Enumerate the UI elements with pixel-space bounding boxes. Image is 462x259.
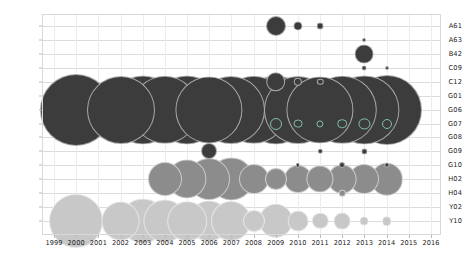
gridline-horizontal bbox=[42, 151, 441, 152]
y-axis-tick bbox=[39, 123, 42, 124]
bubble-c09-2014[interactable] bbox=[385, 66, 389, 70]
y-axis-tick bbox=[39, 39, 42, 40]
bubble-g07-2014[interactable] bbox=[382, 119, 392, 129]
bubble-h02-2011[interactable] bbox=[307, 166, 334, 193]
y-axis-tick bbox=[39, 67, 42, 68]
x-axis-tick bbox=[121, 235, 122, 238]
y-axis-tick-label-h02: H02 bbox=[424, 175, 462, 183]
bubble-a61-2010[interactable] bbox=[293, 21, 302, 30]
x-axis-tick-label-2016: 2016 bbox=[422, 239, 439, 247]
bubble-y10-2013[interactable] bbox=[360, 217, 369, 226]
x-axis-tick bbox=[76, 235, 77, 238]
x-axis-tick-label-2007: 2007 bbox=[223, 239, 240, 247]
y-axis-tick-label-g07: G07 bbox=[424, 120, 462, 128]
bubble-g09-2006[interactable] bbox=[201, 143, 217, 159]
bubble-g06-2002[interactable] bbox=[87, 76, 155, 144]
bubble-h04-2012[interactable] bbox=[339, 190, 345, 196]
x-axis-tick-label-2008: 2008 bbox=[245, 239, 262, 247]
y-axis-tick-label-a61: A61 bbox=[424, 22, 462, 30]
x-axis-tick bbox=[54, 235, 55, 238]
bubble-g07-2012[interactable] bbox=[337, 119, 347, 129]
y-axis-tick-label-a63: A63 bbox=[424, 36, 462, 44]
bubble-g10-2012[interactable] bbox=[339, 162, 345, 168]
x-axis-tick-label-2001: 2001 bbox=[90, 239, 107, 247]
x-axis-tick bbox=[254, 235, 255, 238]
bubble-y10-2014[interactable] bbox=[382, 216, 392, 226]
bubble-y10-2012[interactable] bbox=[334, 213, 351, 230]
y-axis-tick bbox=[39, 179, 42, 180]
x-axis-tick bbox=[276, 235, 277, 238]
bubble-g06-2006[interactable] bbox=[176, 76, 243, 143]
x-axis-tick bbox=[342, 235, 343, 238]
y-axis-tick bbox=[39, 109, 42, 110]
y-axis-tick bbox=[39, 95, 42, 96]
x-axis-tick bbox=[209, 235, 210, 238]
x-axis-tick bbox=[231, 235, 232, 238]
y-axis-tick-label-y02: Y02 bbox=[424, 203, 462, 211]
y-axis-tick bbox=[39, 53, 42, 54]
y-axis-tick bbox=[39, 137, 42, 138]
x-axis-tick bbox=[364, 235, 365, 238]
x-axis-tick-label-2003: 2003 bbox=[134, 239, 151, 247]
x-axis-tick-label-2011: 2011 bbox=[312, 239, 329, 247]
y-axis-tick-label-y10: Y10 bbox=[424, 217, 462, 225]
plot-area bbox=[42, 14, 441, 235]
y-axis-tick bbox=[39, 151, 42, 152]
y-axis-tick-label-g01: G01 bbox=[424, 92, 462, 100]
bubble-g09-2011[interactable] bbox=[318, 149, 322, 153]
x-axis-tick bbox=[387, 235, 388, 238]
bubble-y10-2008[interactable] bbox=[243, 210, 265, 232]
y-axis-tick-label-h04: H04 bbox=[424, 189, 462, 197]
x-axis-tick bbox=[409, 235, 410, 238]
bubble-c09-2013[interactable] bbox=[362, 65, 367, 70]
gridline-horizontal bbox=[42, 26, 441, 27]
bubble-c12-2009[interactable] bbox=[266, 72, 286, 92]
x-axis-tick bbox=[320, 235, 321, 238]
bubble-g09-2013[interactable] bbox=[362, 149, 367, 154]
gridline-horizontal bbox=[42, 40, 441, 41]
y-axis-tick-label-g06: G06 bbox=[424, 106, 462, 114]
bubble-g07-2010[interactable] bbox=[294, 119, 303, 128]
bubble-h02-2009[interactable] bbox=[265, 168, 287, 190]
x-axis-tick bbox=[143, 235, 144, 238]
bubble-a63-2013[interactable] bbox=[362, 38, 366, 42]
x-axis-tick-label-2013: 2013 bbox=[356, 239, 373, 247]
x-axis-tick bbox=[298, 235, 299, 238]
bubble-chart: A61A63B42C09C12G01G06G07G08G09G10H02H04Y… bbox=[0, 0, 462, 259]
x-axis-tick-label-2012: 2012 bbox=[334, 239, 351, 247]
x-axis-tick-label-2000: 2000 bbox=[68, 239, 85, 247]
bubble-a61-2011[interactable] bbox=[317, 23, 324, 30]
x-axis-tick-label-2009: 2009 bbox=[267, 239, 284, 247]
x-axis-tick-label-2015: 2015 bbox=[400, 239, 417, 247]
x-axis-tick bbox=[98, 235, 99, 238]
x-axis-tick-label-2004: 2004 bbox=[156, 239, 173, 247]
x-axis-tick-label-2002: 2002 bbox=[112, 239, 129, 247]
bubble-a61-2009[interactable] bbox=[266, 16, 286, 36]
x-axis-tick-label-2005: 2005 bbox=[178, 239, 195, 247]
y-axis-tick-label-g08: G08 bbox=[424, 133, 462, 141]
bubble-y10-2011[interactable] bbox=[312, 213, 328, 229]
bubble-g06-2011[interactable] bbox=[287, 76, 354, 143]
y-axis-tick bbox=[39, 81, 42, 82]
x-axis-tick-label-2014: 2014 bbox=[378, 239, 395, 247]
bubble-b42-2013[interactable] bbox=[355, 44, 374, 63]
x-axis-tick bbox=[187, 235, 188, 238]
y-axis-tick bbox=[39, 165, 42, 166]
y-axis-tick-label-c12: C12 bbox=[424, 78, 462, 86]
bubble-g07-2009[interactable] bbox=[270, 118, 282, 130]
y-axis-tick-label-g10: G10 bbox=[424, 161, 462, 169]
gridline-horizontal bbox=[42, 54, 441, 55]
x-axis-tick-label-2006: 2006 bbox=[201, 239, 218, 247]
y-axis-tick bbox=[39, 207, 42, 208]
bubble-h02-2004[interactable] bbox=[148, 162, 182, 196]
x-axis-tick-label-2010: 2010 bbox=[289, 239, 306, 247]
y-axis-tick bbox=[39, 26, 42, 27]
y-axis-tick-label-c09: C09 bbox=[424, 64, 462, 72]
x-axis-tick bbox=[165, 235, 166, 238]
x-axis-tick bbox=[431, 235, 432, 238]
y-axis-tick bbox=[39, 221, 42, 222]
y-axis-tick-label-b42: B42 bbox=[424, 50, 462, 58]
y-axis-tick bbox=[39, 193, 42, 194]
y-axis-tick-label-g09: G09 bbox=[424, 147, 462, 155]
bubble-y10-2010[interactable] bbox=[288, 211, 309, 232]
